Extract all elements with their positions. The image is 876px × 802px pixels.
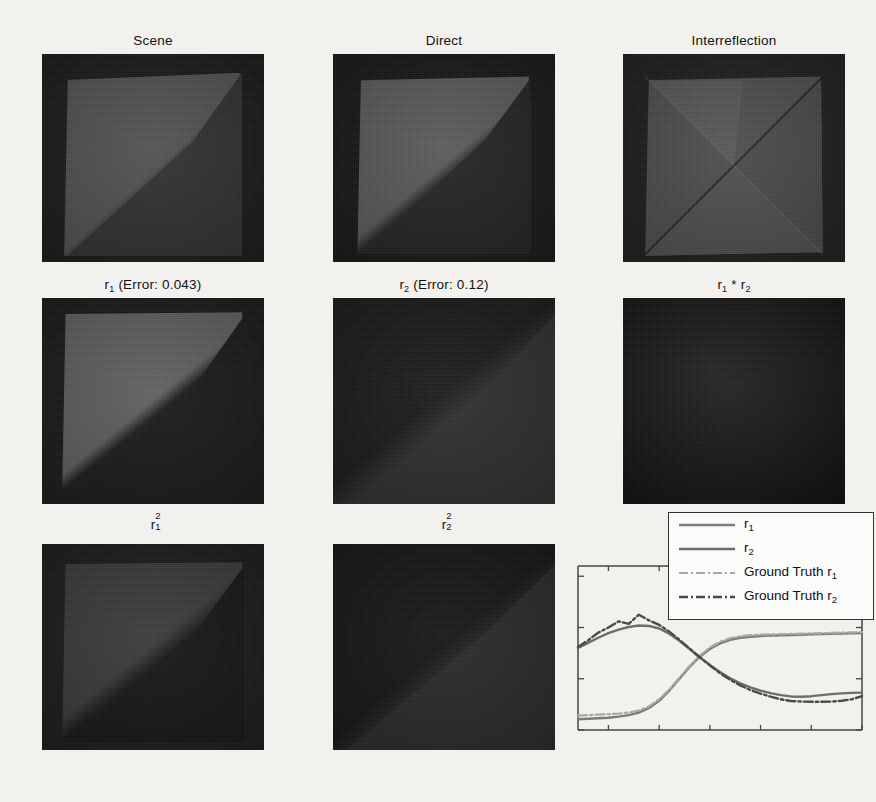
image-direct — [333, 54, 555, 262]
legend-item-r1: r1 — [669, 513, 873, 537]
panel-title-r2-squared: r22 — [311, 518, 577, 532]
r1sq-superscript: 2 — [155, 511, 160, 521]
chart-legend: r1 r2 Ground Truth r1 — [668, 512, 874, 620]
r1-error-text: (Error: 0.043) — [114, 277, 201, 292]
legend-label-r1: r1 — [744, 517, 754, 533]
r2-error-text: (Error: 0.12) — [409, 277, 488, 292]
chart-series — [578, 615, 862, 720]
legend-label-r2: r2 — [744, 541, 754, 557]
series-r2 — [578, 625, 862, 696]
panel-title-interreflection: Interreflection — [601, 34, 867, 48]
series-ground-truth-r2 — [578, 615, 862, 702]
panel-title-r1: r1 (Error: 0.043) — [20, 278, 286, 294]
image-r2 — [333, 298, 555, 504]
image-r1-squared — [42, 544, 264, 750]
series-r1 — [578, 633, 862, 719]
image-scene — [42, 54, 264, 262]
legend-label-ground-truth-r1: Ground Truth r1 — [744, 565, 837, 581]
product-r2-subscript: 2 — [745, 284, 750, 294]
image-r1-times-r2 — [623, 298, 845, 504]
panel-title-r1-squared: r21 — [20, 518, 286, 532]
figure-root: Scene Direct In — [0, 0, 876, 802]
legend-item-ground-truth-r2: Ground Truth r2 — [669, 585, 873, 609]
panel-r2: r2 (Error: 0.12) — [311, 278, 577, 516]
r1sq-subscript: 1 — [155, 522, 160, 532]
r2-squared-symbol: r22 — [442, 518, 447, 532]
legend-item-ground-truth-r1: Ground Truth r1 — [669, 561, 873, 585]
panel-interreflection: Interreflection — [601, 34, 867, 274]
image-interreflection — [623, 54, 845, 262]
legend-label-ground-truth-r2: Ground Truth r2 — [744, 589, 837, 605]
image-r2-squared — [333, 544, 555, 750]
panel-direct: Direct — [311, 34, 577, 274]
panel-title-r1-times-r2: r1 * r2 — [601, 278, 867, 294]
r1-squared-symbol: r21 — [151, 518, 156, 532]
product-operator: * — [727, 277, 740, 292]
panel-r2-squared: r22 — [311, 518, 577, 768]
image-r1 — [42, 298, 264, 504]
panel-r1: r1 (Error: 0.043) — [20, 278, 286, 516]
panel-title-r2: r2 (Error: 0.12) — [311, 278, 577, 294]
spectra-chart: Spectra 0.3 0.2 0.1 0 450 500 550 600 65… — [540, 516, 876, 792]
panel-r1-squared: r21 — [20, 518, 286, 768]
r2sq-superscript: 2 — [446, 511, 451, 521]
panel-title-direct: Direct — [311, 34, 577, 48]
panel-r1-times-r2: r1 * r2 — [601, 278, 867, 516]
legend-item-r2: r2 — [669, 537, 873, 561]
panel-scene: Scene — [20, 34, 286, 274]
panel-title-scene: Scene — [20, 34, 286, 48]
r2sq-subscript: 2 — [446, 522, 451, 532]
